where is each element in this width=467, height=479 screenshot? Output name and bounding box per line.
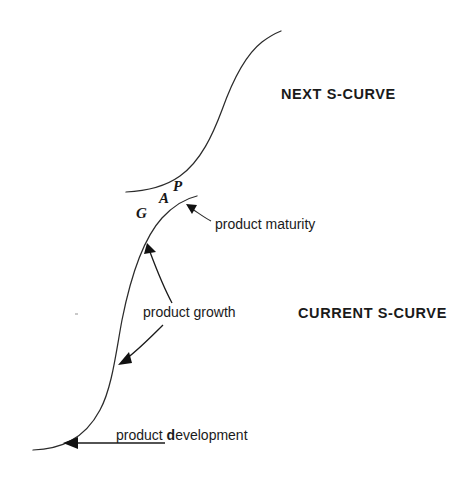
gap-letter-a: A: [158, 190, 169, 206]
product-development-label-suffix: evelopment: [175, 427, 247, 443]
diagram-background: [0, 0, 467, 479]
product-maturity-label: product maturity: [215, 216, 315, 232]
gap-letter-p: P: [173, 178, 183, 194]
next-s-curve-caption: NEXT S-CURVE: [281, 86, 396, 102]
diagram-canvas: P A G product maturity product growth pr…: [0, 0, 467, 479]
current-s-curve-caption: CURRENT S-CURVE: [298, 305, 447, 321]
product-development-label-prefix: product: [116, 427, 167, 443]
s-curve-diagram: P A G product maturity product growth pr…: [0, 0, 467, 479]
product-growth-label: product growth: [143, 304, 236, 320]
gap-letter-g: G: [136, 205, 147, 221]
product-development-label-emph: d: [167, 427, 176, 443]
product-development-label: product development: [116, 427, 248, 443]
scan-speck-artifact: [75, 313, 78, 315]
